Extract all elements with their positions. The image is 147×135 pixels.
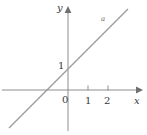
coordinate-plane-svg	[0, 0, 147, 135]
plotted-line-label: a	[101, 16, 105, 23]
x-axis-arrowhead	[136, 87, 143, 94]
y-axis-arrowhead	[65, 6, 72, 13]
line-graph-figure: 0 1 2 1 x y a	[0, 0, 147, 135]
y-axis-label: y	[57, 3, 63, 13]
x-tick-label-1: 1	[85, 96, 91, 106]
y-tick-label-1: 1	[58, 61, 64, 71]
x-tick-label-2: 2	[104, 96, 110, 106]
origin-label: 0	[62, 95, 68, 105]
x-axis-label: x	[134, 96, 140, 106]
